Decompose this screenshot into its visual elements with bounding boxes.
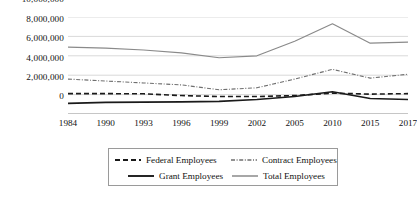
x-tick-label: 1984 <box>59 118 77 128</box>
legend-swatch-solid-gray-icon <box>232 172 258 180</box>
legend-item-total-employees[interactable]: Total Employees <box>232 168 331 184</box>
x-tick-label: 2017 <box>399 118 417 128</box>
y-axis: 02,000,0004,000,0006,000,0008,000,00010,… <box>0 0 64 130</box>
y-tick-label: 8,000,000 <box>0 15 64 24</box>
legend-swatch-fine-dash-icon <box>231 156 257 164</box>
plot-svg <box>68 17 408 114</box>
x-tick-label: 1993 <box>134 118 152 128</box>
y-tick-label: 10,000,000 <box>0 0 64 5</box>
chart-legend: Federal Employees Contract Employees Gra… <box>108 148 338 186</box>
legend-item-contract-employees[interactable]: Contract Employees <box>231 152 331 168</box>
y-tick-label: 2,000,000 <box>0 73 64 82</box>
legend-item-federal-employees[interactable]: Federal Employees <box>115 152 231 168</box>
x-tick-label: 2002 <box>248 118 266 128</box>
legend-label-contract-employees: Contract Employees <box>262 155 337 165</box>
x-tick-label: 2015 <box>361 118 379 128</box>
series-line-contract-employees <box>68 69 408 89</box>
y-tick-label: 6,000,000 <box>0 34 64 43</box>
y-tick-label: 0 <box>0 92 64 101</box>
legend-swatch-solid-black-icon <box>128 172 154 180</box>
legend-row-1: Federal Employees Contract Employees <box>115 152 331 168</box>
x-tick-label: 1996 <box>172 118 190 128</box>
legend-label-grant-employees: Grant Employees <box>159 171 223 181</box>
employment-trend-line-chart: 02,000,0004,000,0006,000,0008,000,00010,… <box>0 0 417 199</box>
legend-label-total-employees: Total Employees <box>263 171 325 181</box>
legend-swatch-dashed-icon <box>115 156 141 164</box>
x-tick-label: 1990 <box>97 118 115 128</box>
x-tick-label: 2010 <box>323 118 341 128</box>
y-tick-label: 4,000,000 <box>0 54 64 63</box>
series-line-total-employees <box>68 24 408 58</box>
x-tick-label: 2005 <box>285 118 303 128</box>
plot-area <box>68 17 408 114</box>
legend-row-2: Grant Employees Total Employees <box>115 168 331 184</box>
legend-item-grant-employees[interactable]: Grant Employees <box>115 168 232 184</box>
x-axis: 1984199019931996199920022005201020152017 <box>68 118 408 132</box>
x-tick-label: 1999 <box>210 118 228 128</box>
legend-label-federal-employees: Federal Employees <box>146 155 217 165</box>
